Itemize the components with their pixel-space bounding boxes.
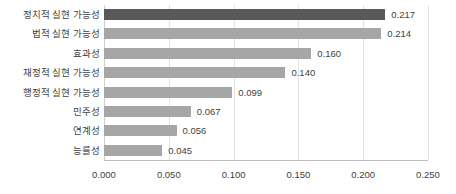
bar-row[interactable]: 0.214 (104, 24, 428, 43)
category-label: 정치적 실현 가능성 (0, 5, 100, 24)
tick-label: 0.250 (416, 164, 440, 186)
bar[interactable] (104, 125, 177, 136)
category-label: 민주성 (0, 102, 100, 121)
bar[interactable] (104, 48, 311, 59)
gridline-0.250 (428, 5, 429, 160)
x-axis-line (104, 160, 428, 161)
category-label: 효과성 (0, 44, 100, 63)
bar-chart: 0.2170.2140.1600.1400.0990.0670.0560.045… (0, 0, 456, 194)
bar-value-label: 0.217 (391, 7, 415, 22)
category-label: 법적 실현 가능성 (0, 24, 100, 43)
bar-row[interactable]: 0.160 (104, 44, 428, 63)
bar-row[interactable]: 0.217 (104, 5, 428, 24)
category-label: 연계성 (0, 121, 100, 140)
tick-label: 0.100 (222, 164, 246, 186)
bar[interactable] (104, 67, 285, 78)
category-axis-labels: 정치적 실현 가능성법적 실현 가능성효과성재정적 실현 가능성행정적 실현 가… (0, 5, 100, 160)
bar-row[interactable]: 0.045 (104, 141, 428, 160)
bar-value-label: 0.099 (238, 85, 262, 100)
bar-value-label: 0.067 (197, 104, 221, 119)
category-label: 능률성 (0, 141, 100, 160)
category-label: 행정적 실현 가능성 (0, 83, 100, 102)
tick-label: 0.200 (351, 164, 375, 186)
bar[interactable] (104, 87, 232, 98)
bar-row[interactable]: 0.056 (104, 121, 428, 140)
plot-area: 0.2170.2140.1600.1400.0990.0670.0560.045 (104, 5, 428, 160)
bar[interactable] (104, 106, 191, 117)
tick-label: 0.050 (157, 164, 181, 186)
bar-value-label: 0.160 (317, 46, 341, 61)
bars-container: 0.2170.2140.1600.1400.0990.0670.0560.045 (104, 5, 428, 160)
bar[interactable] (104, 145, 162, 156)
bar-row[interactable]: 0.099 (104, 83, 428, 102)
bar-value-label: 0.056 (183, 123, 207, 138)
tick-label: 0.000 (92, 164, 116, 186)
bar-row[interactable]: 0.067 (104, 102, 428, 121)
category-label: 재정적 실현 가능성 (0, 63, 100, 82)
x-axis-tick-labels: 0.0000.0500.1000.1500.2000.250 (104, 164, 428, 186)
bar-value-label: 0.214 (387, 26, 411, 41)
bar[interactable] (104, 9, 385, 20)
bar-row[interactable]: 0.140 (104, 63, 428, 82)
bar-value-label: 0.045 (168, 143, 192, 158)
tick-label: 0.150 (287, 164, 311, 186)
bar-value-label: 0.140 (291, 65, 315, 80)
bar[interactable] (104, 28, 381, 39)
